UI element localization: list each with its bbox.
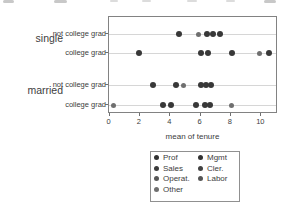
row-guide-line (109, 34, 276, 35)
legend-item-other: Other (154, 184, 183, 194)
data-point (217, 31, 223, 37)
row-label-single-not-college-grad: not college grad (36, 29, 106, 38)
data-point (205, 50, 211, 56)
data-point (266, 50, 272, 56)
operat-marker-icon (154, 176, 159, 181)
cropped-text-artifact (54, 0, 67, 3)
x-axis-tick-label: 6 (192, 117, 208, 126)
data-point (204, 31, 210, 37)
x-axis-tick-label: 2 (131, 117, 147, 126)
row-label-single-college-grad: college grad (36, 48, 106, 57)
cropped-text-artifact (226, 0, 235, 2)
x-axis-tick-label: 0 (101, 117, 117, 126)
other-marker-icon (154, 187, 159, 192)
cropped-text-artifact (142, 0, 151, 2)
labor-marker-icon (198, 176, 203, 181)
x-axis-tick-label: 10 (252, 117, 268, 126)
data-point (198, 50, 204, 56)
legend-item-sales: Sales (154, 163, 183, 173)
legend-item-cler: Cler. (198, 163, 223, 173)
x-axis-tick-label: 8 (222, 117, 238, 126)
data-point (160, 102, 166, 108)
data-point (210, 31, 216, 37)
legend-label: Cler. (207, 164, 223, 173)
data-point (176, 31, 182, 37)
legend-item-mgmt: Mgmt (198, 153, 227, 163)
legend-label: Prof (163, 153, 178, 162)
data-point (229, 103, 234, 108)
legend-item-operat: Operat. (154, 174, 190, 184)
cropped-text-artifact (110, 0, 118, 2)
y-axis-tick (105, 52, 108, 53)
cropped-text-artifact (187, 0, 197, 2)
prof-marker-icon (154, 155, 159, 160)
data-point (229, 50, 235, 56)
row-label-married-college-grad: college grad (36, 100, 106, 109)
data-point (181, 83, 186, 88)
mgmt-marker-icon (198, 155, 203, 160)
row-label-married-not-college-grad: not college grad (36, 80, 106, 89)
data-point (207, 102, 213, 108)
plot-area (108, 16, 277, 113)
y-axis-tick (105, 33, 108, 34)
y-axis-tick (105, 104, 108, 105)
cropped-text-artifact (3, 0, 14, 3)
data-point (196, 32, 201, 37)
sales-marker-icon (154, 166, 159, 171)
x-axis-tick-label: 4 (161, 117, 177, 126)
legend-label: Mgmt (207, 153, 227, 162)
legend-label: Operat. (163, 174, 190, 183)
legend-item-labor: Labor (198, 174, 227, 184)
legend-item-prof: Prof (154, 153, 178, 163)
legend-label: Labor (207, 174, 227, 183)
data-point (136, 50, 142, 56)
row-guide-line (109, 53, 276, 54)
data-point (193, 102, 199, 108)
data-point (208, 82, 214, 88)
data-point (173, 82, 179, 88)
legend-label: Sales (163, 164, 183, 173)
data-point (257, 51, 262, 56)
cropped-text-artifact (264, 0, 276, 3)
data-point (111, 103, 116, 108)
legend-label: Other (163, 185, 183, 194)
row-guide-line (109, 85, 276, 86)
data-point (168, 102, 174, 108)
data-point (150, 82, 156, 88)
x-axis-title: mean of tenure (108, 132, 277, 141)
y-axis-tick (105, 84, 108, 85)
dot-plot-figure: single married not college grad college … (0, 0, 283, 208)
cler-marker-icon (198, 166, 203, 171)
